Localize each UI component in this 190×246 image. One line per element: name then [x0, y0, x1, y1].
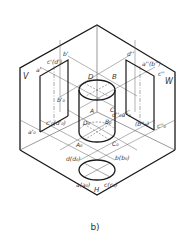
- label-B0: B₀: [105, 118, 112, 125]
- label-b-prime: b': [63, 50, 69, 57]
- label-d-d0: d(d₀): [66, 155, 81, 162]
- label-a0-prime: a'₀: [28, 128, 36, 135]
- label-d-dprime: d'': [127, 50, 134, 57]
- h-projection: [79, 160, 115, 180]
- label-a-a0: a(a₀): [76, 181, 90, 188]
- label-C0: C₀: [112, 140, 119, 147]
- label-b-b0: b(b₀): [115, 154, 130, 161]
- projection-diagram: V W H a' c'(d') b' b'₀ a'₀ c'₀(d'₀) d'' …: [0, 0, 190, 246]
- label-a-prime: a': [36, 66, 42, 73]
- label-c-c0: c(c₀): [104, 181, 118, 188]
- label-A0: A₀: [75, 141, 83, 148]
- label-c-prime-d-prime: c'(d'): [47, 58, 62, 65]
- label-plane-h: H: [94, 186, 100, 194]
- label-A: A: [89, 107, 94, 114]
- label-D0: D₀: [83, 119, 91, 126]
- label-c0-prime-d0-prime: c'₀(d'₀): [46, 119, 66, 126]
- label-c-dprime: c'': [158, 70, 165, 77]
- label-plane-v: V: [23, 72, 29, 81]
- label-B: B: [112, 73, 117, 81]
- label-c0-dprime: c''₀: [157, 122, 167, 129]
- figure-caption: b): [0, 222, 190, 232]
- label-b0-prime: b'₀: [57, 96, 65, 103]
- axis-lines: [20, 25, 175, 150]
- label-D: D: [88, 73, 94, 81]
- label-plane-w: W: [165, 77, 174, 86]
- label-d0-dprime-a0-dprime: d''₀a''₀: [112, 111, 131, 118]
- label-b0-dprime: (b''₀): [135, 120, 149, 127]
- label-a-dprime-b-dprime: a''(b''): [142, 60, 161, 67]
